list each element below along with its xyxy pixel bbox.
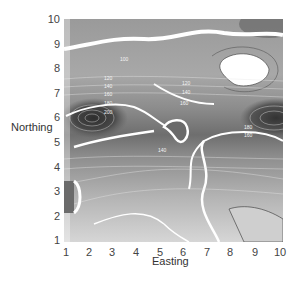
svg-text:180: 180 <box>244 124 253 130</box>
svg-text:140: 140 <box>104 83 113 89</box>
y-tick-9: 9 <box>40 38 60 50</box>
contour-label: 100 <box>120 56 129 62</box>
y-tick-7: 7 <box>40 87 60 99</box>
x-tick-10: 10 <box>270 246 290 258</box>
y-tick-8: 8 <box>40 62 60 74</box>
y-tick-4: 4 <box>40 161 60 173</box>
svg-text:160: 160 <box>104 91 113 97</box>
x-axis-label: Easting <box>152 255 189 267</box>
svg-text:200: 200 <box>104 109 113 115</box>
x-tick-2: 2 <box>79 246 99 258</box>
y-tick-2: 2 <box>40 210 60 222</box>
svg-text:160: 160 <box>180 100 189 106</box>
y-tick-3: 3 <box>40 185 60 197</box>
svg-text:140: 140 <box>182 89 191 95</box>
x-tick-4: 4 <box>126 246 146 258</box>
x-tick-3: 3 <box>102 246 122 258</box>
y-tick-5: 5 <box>40 136 60 148</box>
contour-map: 100 120 140 160 180 200 120 140 160 180 … <box>64 19 283 242</box>
svg-text:120: 120 <box>182 80 191 86</box>
x-tick-7: 7 <box>197 246 217 258</box>
y-tick-1: 1 <box>40 234 60 246</box>
svg-text:140: 140 <box>158 147 167 153</box>
x-tick-8: 8 <box>220 246 240 258</box>
x-tick-9: 9 <box>245 246 265 258</box>
contour-plot-area: 100 120 140 160 180 200 120 140 160 180 … <box>64 19 283 242</box>
svg-text:160: 160 <box>244 132 253 138</box>
svg-text:180: 180 <box>104 100 113 106</box>
y-axis-label: Northing <box>11 121 53 133</box>
x-tick-1: 1 <box>56 246 76 258</box>
y-tick-10: 10 <box>40 13 60 25</box>
svg-text:120: 120 <box>104 75 113 81</box>
